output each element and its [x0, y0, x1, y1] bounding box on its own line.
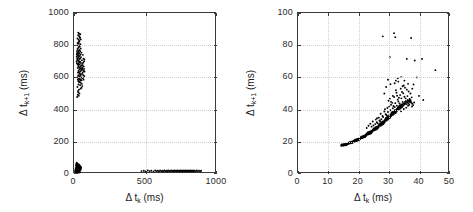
scatter-point: [407, 102, 409, 104]
scatter-point: [393, 105, 395, 107]
scatter-point: [385, 86, 387, 88]
left-xaxis-units: (ms): [143, 192, 163, 203]
tick-mark-y: [447, 110, 450, 111]
tick-label-y: 100: [263, 7, 293, 17]
tick-mark-x: [146, 171, 147, 174]
scatter-point: [81, 69, 83, 71]
right-xaxis-title: Δ tk (ms): [354, 192, 392, 204]
scatter-point: [392, 95, 394, 97]
gridline-vertical: [359, 13, 361, 174]
scatter-point: [397, 101, 399, 103]
tick-mark-y: [74, 142, 77, 143]
tick-label-x: 40: [413, 176, 423, 186]
gridline-vertical: [146, 13, 148, 174]
scatter-point: [78, 58, 80, 60]
scatter-point: [81, 59, 83, 61]
tick-label-y: 600: [39, 71, 69, 81]
tick-mark-y: [214, 142, 217, 143]
tick-label-y: 20: [263, 136, 293, 146]
scatter-point: [79, 37, 81, 39]
scatter-point: [78, 33, 80, 35]
tick-label-x: 0: [294, 176, 299, 186]
tick-mark-y: [74, 173, 77, 174]
left-yaxis-subscript: k+1: [23, 92, 30, 103]
scatter-point: [76, 61, 78, 63]
scatter-point: [77, 64, 79, 66]
right-plot-area: [297, 12, 449, 173]
tick-mark-y: [74, 13, 77, 14]
tick-label-y: 1000: [39, 7, 69, 17]
gridline-vertical: [420, 13, 422, 174]
scatter-point: [366, 127, 368, 129]
tick-label-x: 30: [383, 176, 393, 186]
left-yaxis-delta: Δ: [18, 109, 29, 115]
scatter-point: [379, 120, 381, 122]
scatter-point: [80, 167, 82, 169]
scatter-point: [78, 39, 80, 41]
scatter-point: [399, 94, 401, 96]
scatter-point: [368, 125, 370, 127]
scatter-point: [401, 91, 403, 93]
tick-mark-y: [447, 77, 450, 78]
left-xaxis-subscript: k: [137, 197, 141, 204]
scatter-point: [411, 106, 413, 108]
scatter-point: [385, 114, 387, 116]
tick-mark-x: [328, 13, 329, 16]
scatter-point: [406, 58, 408, 60]
scatter-point: [394, 36, 396, 38]
scatter-point: [394, 82, 396, 84]
figure-container: 0500100002004006008001000 Δ tk (ms) Δ tk…: [0, 0, 473, 212]
scatter-point: [378, 117, 380, 119]
tick-mark-x: [389, 171, 390, 174]
scatter-point: [399, 103, 401, 105]
scatter-point: [76, 50, 78, 52]
scatter-point: [413, 84, 415, 86]
scatter-point: [383, 93, 385, 95]
scatter-point: [405, 107, 407, 109]
scatter-point: [80, 88, 82, 90]
right-yaxis-units: (ms): [245, 70, 256, 90]
tick-mark-y: [74, 77, 77, 78]
tick-mark-x: [420, 171, 421, 174]
scatter-point: [78, 171, 80, 173]
tick-mark-y: [74, 110, 77, 111]
scatter-point: [395, 89, 397, 91]
tick-mark-x: [146, 13, 147, 16]
left-plot-area: [73, 12, 216, 173]
scatter-point: [396, 92, 398, 94]
scatter-point: [76, 86, 78, 88]
scatter-point: [79, 84, 81, 86]
scatter-point: [412, 104, 414, 106]
tick-mark-x: [359, 171, 360, 174]
scatter-point: [77, 90, 79, 92]
scatter-point: [411, 96, 413, 98]
scatter-point: [402, 101, 404, 103]
scatter-point: [372, 124, 374, 126]
scatter-point: [371, 126, 373, 128]
tick-label-y: 800: [39, 39, 69, 49]
scatter-point: [434, 69, 436, 71]
tick-label-y: 400: [39, 104, 69, 114]
scatter-point: [141, 170, 143, 172]
scatter-point: [77, 84, 79, 86]
scatter-point: [380, 113, 382, 115]
scatter-point: [405, 97, 407, 99]
tick-mark-y: [447, 45, 450, 46]
scatter-point: [80, 47, 82, 49]
scatter-point: [81, 65, 83, 67]
scatter-point: [80, 38, 82, 40]
scatter-point: [403, 85, 405, 87]
right-scatter-points: [298, 13, 450, 174]
scatter-point: [382, 115, 384, 117]
scatter-point: [76, 96, 78, 98]
tick-mark-y: [298, 45, 301, 46]
tick-label-x: 20: [353, 176, 363, 186]
scatter-point: [395, 80, 397, 82]
tick-mark-y: [298, 13, 301, 14]
tick-mark-x: [420, 13, 421, 16]
tick-label-x: 0: [70, 176, 75, 186]
scatter-point: [150, 170, 152, 172]
scatter-point: [78, 93, 80, 95]
tick-mark-y: [298, 173, 301, 174]
gridline-horizontal: [298, 45, 450, 47]
